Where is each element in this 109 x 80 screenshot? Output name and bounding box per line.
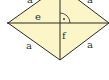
label-diagonal-e: e bbox=[35, 11, 41, 22]
label-side-bottom-right: a bbox=[87, 39, 93, 50]
label-side-top-right: a bbox=[87, 0, 93, 5]
right-angle-dot bbox=[63, 18, 65, 20]
label-side-bottom-left: a bbox=[26, 40, 32, 51]
rhombus-diagram: a a e f a a bbox=[0, 0, 109, 80]
rhombus-shape bbox=[8, 0, 109, 60]
vertex-left-dot bbox=[7, 22, 9, 24]
label-side-top-left: a bbox=[27, 0, 33, 5]
